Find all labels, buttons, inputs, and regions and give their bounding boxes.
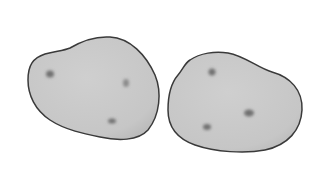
potato-eye (203, 124, 211, 130)
potatoes-svg (0, 0, 325, 194)
potato-right-body (168, 52, 302, 152)
potato-eye (123, 79, 129, 87)
potato-eye (244, 110, 254, 117)
potatoes-illustration (0, 0, 325, 194)
potato-left-body (28, 37, 159, 140)
potato-eye (209, 69, 216, 76)
potato-left (28, 37, 159, 140)
potato-eye (108, 119, 116, 124)
potato-right (168, 52, 302, 152)
potato-eye (46, 71, 54, 78)
